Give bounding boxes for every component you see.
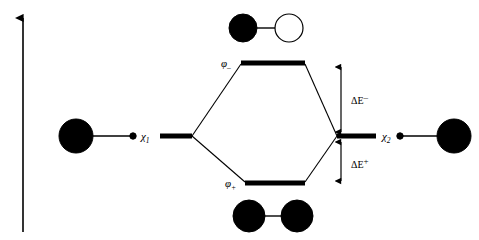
label-chi2-subscript: 2 [387, 136, 391, 145]
correlation-chi2-to-phi-minus [305, 64, 337, 136]
orbital-lobe-filled [281, 200, 313, 232]
label-energy-gap-bonding: ΔE+ [351, 156, 369, 170]
orbital-lobe-filled [437, 119, 471, 153]
orbital-atomic-left [59, 119, 136, 153]
orbital-antibonding [229, 14, 303, 42]
label-phi-minus: φ– [221, 57, 231, 72]
orbital-lobe-node-dot [397, 133, 403, 139]
label-phi-plus: φ+ [225, 177, 236, 192]
diagram-labels: χ1 χ2 φ– φ+ ΔE– ΔE+ [140, 57, 391, 192]
energy-levels [160, 63, 376, 183]
label-dE-plus-superscript: + [364, 156, 369, 166]
correlation-chi1-to-phi-minus [192, 64, 241, 136]
orbital-lobe-node-dot [130, 133, 136, 139]
label-dE-minus-superscript: – [363, 92, 369, 102]
label-chi1-subscript: 1 [146, 136, 150, 145]
mo-diagram-svg: χ1 χ2 φ– φ+ ΔE– ΔE+ [0, 0, 479, 240]
correlation-chi1-to-phi-plus [192, 136, 245, 182]
orbital-lobe-filled [229, 14, 257, 42]
label-chi1: χ1 [140, 130, 150, 145]
orbital-bonding [233, 200, 313, 232]
orbital-lobe-empty [275, 14, 303, 42]
label-phi-minus-subscript: – [226, 63, 231, 72]
mo-diagram-canvas: χ1 χ2 φ– φ+ ΔE– ΔE+ [0, 0, 479, 240]
correlation-chi2-to-phi-plus [305, 136, 337, 182]
label-dE-plus-symbol: ΔE [351, 159, 364, 170]
orbital-lobe-filled [59, 119, 93, 153]
correlation-lines [192, 64, 337, 182]
label-phi-plus-subscript: + [231, 183, 236, 192]
orbital-lobe-filled [233, 200, 265, 232]
orbital-atomic-right [397, 119, 471, 153]
label-chi2: χ2 [381, 130, 391, 145]
label-energy-gap-antibonding: ΔE– [351, 92, 369, 106]
label-dE-minus-symbol: ΔE [351, 95, 364, 106]
